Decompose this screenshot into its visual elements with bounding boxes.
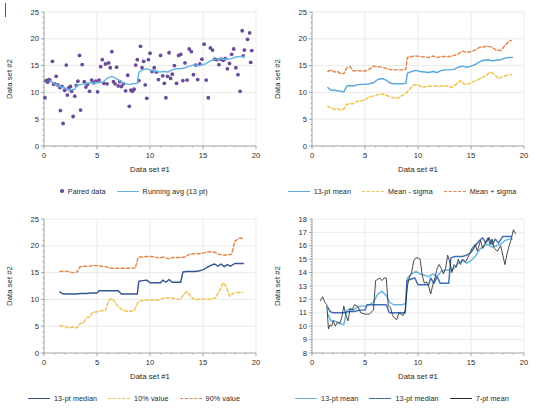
svg-text:0: 0 bbox=[303, 142, 307, 151]
svg-text:20: 20 bbox=[299, 34, 307, 43]
svg-text:15: 15 bbox=[467, 151, 475, 160]
svg-text:13: 13 bbox=[299, 282, 307, 291]
svg-text:20: 20 bbox=[252, 358, 260, 367]
chart-svg-bottom-right: 8910111213141516171805101520Data set #1D… bbox=[268, 207, 536, 382]
svg-text:9: 9 bbox=[303, 335, 307, 344]
svg-text:5: 5 bbox=[95, 151, 99, 160]
svg-text:0: 0 bbox=[35, 142, 39, 151]
svg-text:15: 15 bbox=[467, 358, 475, 367]
legend-label: 13-pt mean bbox=[314, 187, 351, 196]
panel-top-left: 051015202505101520Data set #1Data set #2… bbox=[0, 0, 268, 206]
svg-text:5: 5 bbox=[35, 115, 39, 124]
legend-bottom-right: 13-pt mean13-pt median7-pt mean bbox=[268, 383, 536, 413]
svg-text:15: 15 bbox=[31, 268, 39, 277]
legend-dashed-line-icon bbox=[444, 191, 466, 192]
svg-text:10: 10 bbox=[414, 358, 422, 367]
svg-text:5: 5 bbox=[35, 322, 39, 331]
legend-top-left: Paired dataRunning avg (13 pt) bbox=[0, 176, 268, 206]
svg-text:20: 20 bbox=[520, 358, 528, 367]
legend-label: 13-pt median bbox=[54, 394, 97, 403]
svg-text:20: 20 bbox=[31, 34, 39, 43]
svg-text:Data set #1: Data set #1 bbox=[398, 372, 438, 381]
panel-top-right: 051015202505101520Data set #1Data set #2… bbox=[268, 0, 536, 206]
svg-text:15: 15 bbox=[199, 151, 207, 160]
svg-text:10: 10 bbox=[414, 151, 422, 160]
svg-text:20: 20 bbox=[252, 151, 260, 160]
plot-area-bottom-left: 051015202505101520Data set #1Data set #2 bbox=[0, 207, 268, 382]
legend-label: 10% value bbox=[134, 394, 168, 403]
legend-line-icon bbox=[369, 398, 391, 399]
legend-item[interactable]: 13-pt median bbox=[28, 394, 97, 403]
svg-text:14: 14 bbox=[299, 268, 307, 277]
legend-item[interactable]: 13-pt mean bbox=[288, 187, 351, 196]
legend-top-right: 13-pt meanMean - sigmaMean + sigma bbox=[268, 176, 536, 206]
svg-text:Data set #1: Data set #1 bbox=[398, 165, 438, 174]
legend-label: Paired data bbox=[68, 187, 106, 196]
svg-text:0: 0 bbox=[310, 358, 314, 367]
legend-label: 90% value bbox=[206, 394, 240, 403]
svg-text:5: 5 bbox=[303, 115, 307, 124]
svg-text:15: 15 bbox=[299, 61, 307, 70]
legend-dashed-line-icon bbox=[108, 398, 130, 399]
legend-label: Running avg (13 pt) bbox=[143, 187, 208, 196]
svg-text:10: 10 bbox=[146, 151, 154, 160]
legend-label: 13-pt median bbox=[395, 394, 438, 403]
legend-item[interactable]: 7-pt mean bbox=[450, 394, 509, 403]
legend-item[interactable]: Mean - sigma bbox=[362, 187, 433, 196]
chart-svg-bottom-left: 051015202505101520Data set #1Data set #2 bbox=[0, 207, 268, 382]
legend-label: 7-pt mean bbox=[476, 394, 509, 403]
svg-text:Data set #1: Data set #1 bbox=[130, 372, 170, 381]
legend-item[interactable]: 90% value bbox=[180, 394, 240, 403]
svg-text:Data set #2: Data set #2 bbox=[273, 59, 282, 99]
legend-bottom-left: 13-pt median10% value90% value bbox=[0, 383, 268, 413]
svg-text:10: 10 bbox=[299, 88, 307, 97]
svg-text:20: 20 bbox=[520, 151, 528, 160]
chart-svg-top-right: 051015202505101520Data set #1Data set #2 bbox=[268, 0, 536, 175]
svg-text:0: 0 bbox=[310, 151, 314, 160]
legend-dashed-line-icon bbox=[362, 191, 384, 192]
svg-text:20: 20 bbox=[31, 241, 39, 250]
svg-text:25: 25 bbox=[31, 8, 39, 17]
chart-svg-top-left: 051015202505101520Data set #1Data set #2 bbox=[0, 0, 268, 175]
svg-text:8: 8 bbox=[303, 349, 307, 358]
svg-text:5: 5 bbox=[95, 358, 99, 367]
svg-text:0: 0 bbox=[35, 349, 39, 358]
svg-text:5: 5 bbox=[363, 358, 367, 367]
panel-bottom-right: 8910111213141516171805101520Data set #1D… bbox=[268, 207, 536, 413]
svg-text:15: 15 bbox=[199, 358, 207, 367]
legend-line-icon bbox=[288, 191, 310, 192]
svg-text:18: 18 bbox=[299, 215, 307, 224]
svg-text:Data set #2: Data set #2 bbox=[273, 266, 282, 306]
svg-text:0: 0 bbox=[42, 358, 46, 367]
svg-text:Data set #1: Data set #1 bbox=[130, 165, 170, 174]
legend-line-icon bbox=[117, 191, 139, 192]
legend-line-icon bbox=[295, 398, 317, 399]
svg-text:12: 12 bbox=[299, 295, 307, 304]
legend-item[interactable]: Paired data bbox=[60, 187, 105, 196]
svg-text:15: 15 bbox=[31, 61, 39, 70]
svg-text:10: 10 bbox=[299, 322, 307, 331]
legend-label: 13-pt mean bbox=[321, 394, 358, 403]
figure-root: 051015202505101520Data set #1Data set #2… bbox=[0, 0, 536, 413]
legend-item[interactable]: 13-pt mean bbox=[295, 394, 358, 403]
svg-text:5: 5 bbox=[363, 151, 367, 160]
plot-area-top-left: 051015202505101520Data set #1Data set #2 bbox=[0, 0, 268, 175]
svg-text:0: 0 bbox=[42, 151, 46, 160]
svg-text:Data set #2: Data set #2 bbox=[5, 266, 14, 306]
svg-text:10: 10 bbox=[31, 295, 39, 304]
legend-item[interactable]: Running avg (13 pt) bbox=[117, 187, 208, 196]
svg-text:10: 10 bbox=[146, 358, 154, 367]
svg-text:11: 11 bbox=[299, 308, 307, 317]
svg-text:Data set #2: Data set #2 bbox=[5, 59, 14, 99]
legend-item[interactable]: 13-pt median bbox=[369, 394, 438, 403]
legend-item[interactable]: Mean + sigma bbox=[444, 187, 517, 196]
legend-line-icon bbox=[450, 398, 472, 399]
svg-text:15: 15 bbox=[299, 255, 307, 264]
plot-area-top-right: 051015202505101520Data set #1Data set #2 bbox=[268, 0, 536, 175]
svg-text:17: 17 bbox=[299, 228, 307, 237]
panel-bottom-left: 051015202505101520Data set #1Data set #2… bbox=[0, 207, 268, 413]
svg-text:25: 25 bbox=[299, 8, 307, 17]
legend-label: Mean + sigma bbox=[470, 187, 517, 196]
legend-item[interactable]: 10% value bbox=[108, 394, 168, 403]
svg-text:25: 25 bbox=[31, 215, 39, 224]
